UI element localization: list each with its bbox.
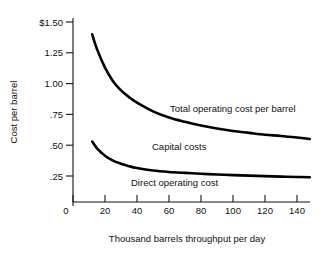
y-ticklabel-0.50: .50 (50, 140, 63, 151)
series-total-operating-cost-curve (92, 34, 310, 139)
y-axis-ticks (66, 22, 73, 176)
annotation-direct-operating-cost: Direct operating cost (131, 177, 218, 188)
x-ticklabel-60: 60 (164, 205, 175, 216)
chart-container: $1.50 1.25 1.00 .75 .50 .25 Cost per bar… (0, 0, 332, 256)
y-ticklabel-1.50: $1.50 (39, 17, 63, 28)
annotation-total-operating-cost: Total operating cost per barrel (170, 103, 296, 114)
x-ticklabel-80: 80 (196, 205, 207, 216)
y-ticklabel-1.00: 1.00 (45, 78, 64, 89)
x-ticklabel-140: 140 (289, 205, 305, 216)
x-axis-ticks (73, 195, 297, 202)
x-ticklabel-100: 100 (225, 205, 241, 216)
y-axis-title: Cost per barrel (8, 81, 19, 144)
x-axis-ticklabels: 0 20 40 60 80 100 120 140 (63, 205, 305, 216)
y-axis-ticklabels: $1.50 1.25 1.00 .75 .50 .25 (39, 17, 63, 182)
x-axis: 0 20 40 60 80 100 120 140 Thousand barre… (63, 195, 310, 244)
x-ticklabel-120: 120 (257, 205, 273, 216)
x-ticklabel-0: 0 (63, 205, 68, 216)
x-axis-title: Thousand barrels throughput per day (109, 233, 266, 244)
x-ticklabel-20: 20 (100, 205, 111, 216)
y-ticklabel-1.25: 1.25 (45, 47, 64, 58)
x-ticklabel-40: 40 (132, 205, 143, 216)
y-axis: $1.50 1.25 1.00 .75 .50 .25 Cost per bar… (8, 17, 73, 207)
y-ticklabel-0.75: .75 (50, 109, 63, 120)
chart-svg: $1.50 1.25 1.00 .75 .50 .25 Cost per bar… (0, 0, 332, 256)
annotation-capital-costs: Capital costs (152, 141, 207, 152)
y-ticklabel-0.25: .25 (50, 171, 63, 182)
